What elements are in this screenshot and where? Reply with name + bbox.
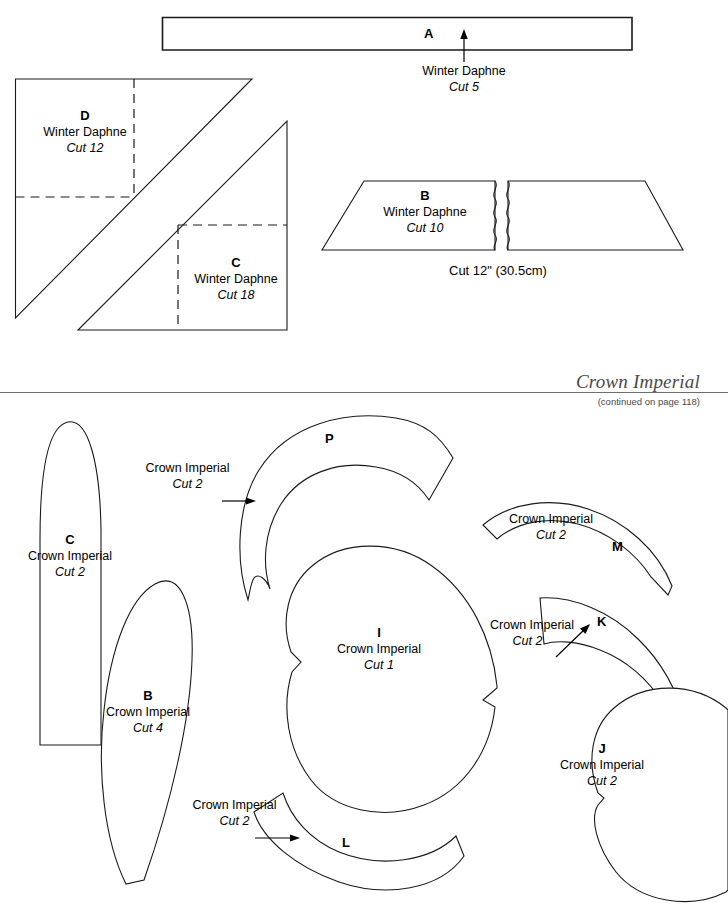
piece-outline-ci-c[interactable] <box>40 422 101 745</box>
piece-flower-ci-l: Crown Imperial <box>192 798 277 814</box>
piece-label-ci-k: Crown Imperial Cut 2 <box>490 618 565 649</box>
piece-label-ci-i: I Crown Imperial Cut 1 <box>329 625 429 673</box>
pattern-sheet: Crown Imperial (continued on page 118) A… <box>0 0 728 905</box>
piece-letter-ci-m: M <box>612 539 623 554</box>
running-head-title: Crown Imperial <box>430 371 700 393</box>
piece-letter-b: B <box>355 188 495 204</box>
piece-label-ci-b: B Crown Imperial Cut 4 <box>98 688 198 736</box>
piece-measurement-note-b: Cut 12" (30.5cm) <box>449 263 547 278</box>
piece-letter-ci-j: J <box>552 741 652 757</box>
piece-flower-ci-m: Crown Imperial <box>491 512 611 528</box>
piece-label-c: C Winter Daphne Cut 18 <box>166 255 306 303</box>
piece-label-a: Winter Daphne Cut 5 <box>364 64 564 95</box>
piece-flower-a: Winter Daphne <box>364 64 564 80</box>
piece-cut-ci-i: Cut 1 <box>329 658 429 674</box>
piece-outline-ci-i[interactable] <box>286 546 497 812</box>
piece-outline-b-right[interactable] <box>508 181 683 250</box>
piece-cut-a: Cut 5 <box>364 80 564 96</box>
piece-flower-ci-p: Crown Imperial <box>145 461 230 477</box>
piece-letter-ci-p: P <box>325 431 334 446</box>
piece-cut-b: Cut 10 <box>355 221 495 237</box>
piece-cut-c: Cut 18 <box>166 288 306 304</box>
piece-label-ci-j: J Crown Imperial Cut 2 <box>552 741 652 789</box>
piece-cut-ci-p: Cut 2 <box>145 477 230 493</box>
piece-cut-ci-l: Cut 2 <box>192 814 277 830</box>
piece-cut-ci-c: Cut 2 <box>20 565 120 581</box>
piece-letter-ci-i: I <box>329 625 429 641</box>
piece-flower-b: Winter Daphne <box>355 205 495 221</box>
piece-cut-ci-j: Cut 2 <box>552 774 652 790</box>
running-head-continued-note: (continued on page 118) <box>430 396 700 407</box>
piece-outline-ci-j[interactable] <box>592 688 728 901</box>
piece-flower-d: Winter Daphne <box>15 125 155 141</box>
piece-label-ci-l: Crown Imperial Cut 2 <box>192 798 277 829</box>
piece-cut-ci-b: Cut 4 <box>98 721 198 737</box>
piece-flower-ci-k: Crown Imperial <box>490 618 565 634</box>
piece-label-ci-c: C Crown Imperial Cut 2 <box>20 532 120 580</box>
piece-letter-d: D <box>15 108 155 124</box>
piece-cut-ci-m: Cut 2 <box>491 528 611 544</box>
piece-label-ci-m: Crown Imperial Cut 2 <box>491 512 611 543</box>
piece-label-ci-p: Crown Imperial Cut 2 <box>145 461 230 492</box>
piece-cut-ci-k: Cut 2 <box>490 634 565 650</box>
piece-letter-a: A <box>424 26 433 41</box>
piece-letter-ci-k: K <box>597 614 606 629</box>
piece-label-d: D Winter Daphne Cut 12 <box>15 108 155 156</box>
piece-flower-ci-b: Crown Imperial <box>98 705 198 721</box>
piece-flower-c: Winter Daphne <box>166 272 306 288</box>
piece-outline-a[interactable] <box>163 18 633 51</box>
piece-label-b: B Winter Daphne Cut 10 <box>355 188 495 236</box>
piece-cut-d: Cut 12 <box>15 141 155 157</box>
piece-letter-ci-b: B <box>98 688 198 704</box>
piece-flower-ci-i: Crown Imperial <box>329 642 429 658</box>
piece-flower-ci-j: Crown Imperial <box>552 758 652 774</box>
piece-letter-c: C <box>166 255 306 271</box>
piece-letter-ci-l: L <box>342 835 350 850</box>
piece-flower-ci-c: Crown Imperial <box>20 549 120 565</box>
piece-letter-ci-c: C <box>20 532 120 548</box>
